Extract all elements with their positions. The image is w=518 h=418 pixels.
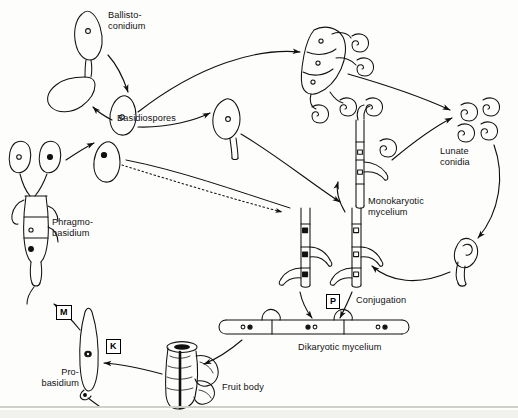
arrow-spore-to-ballisto xyxy=(93,107,112,120)
arrow-phragmo-to-spore xyxy=(66,143,94,160)
arrow-monokaryon-to-conidiogenous xyxy=(337,182,345,212)
lunate-conidia-on-mycelium xyxy=(366,98,397,157)
marker-plasmogamy: P xyxy=(326,294,340,309)
fruit-body-shape xyxy=(166,342,219,409)
label-ballistoconidium: Ballisto- conidium xyxy=(108,10,146,31)
monokaryotic-mycelium-white-shape xyxy=(330,208,383,287)
monokaryotic-mycelium-black-shape xyxy=(279,208,332,287)
arrow-ballisto-to-spore xyxy=(108,55,128,92)
germinating-lunate-conidium-shape xyxy=(454,238,477,286)
probasidium-shape xyxy=(80,308,99,406)
arrow-germ-conidium-to-monokaryon xyxy=(372,266,450,281)
arrow-dikaryon-to-fruitbody xyxy=(204,340,242,364)
arrow-white-monokaryon-to-dikaryon xyxy=(340,292,352,318)
basidiospore-lower-shape xyxy=(94,142,120,183)
marker-karyogamy: K xyxy=(106,339,121,354)
arrow-spore-to-conidiophore xyxy=(138,51,300,112)
arrow-spore-to-black-monokaryon xyxy=(122,165,282,212)
arrow-germinating-to-monokaryon xyxy=(241,134,340,202)
ballistoconidium-shape xyxy=(75,11,103,77)
life-cycle-drawing xyxy=(0,0,518,418)
bracket-line-upper xyxy=(126,160,290,208)
label-dikaryotic-mycelium: Dikaryotic mycelium xyxy=(298,342,382,353)
arrow-conidia-to-germinating xyxy=(478,145,500,238)
lunate-conidia-cluster-shape xyxy=(458,98,500,142)
arrow-black-monokaryon-to-dikaryon xyxy=(300,292,312,318)
label-monokaryotic-mycelium: Monokaryotic mycelium xyxy=(368,196,424,217)
label-fruit-body: Fruit body xyxy=(222,382,264,393)
germinating-basidiospore-shape xyxy=(213,99,240,160)
conidiophore-sporodochium-shape xyxy=(301,27,356,109)
detached-ballistoconidium-shape xyxy=(48,77,95,112)
arrow-conidiophore-to-conidia xyxy=(348,74,450,110)
label-probasidium: Pro- basidium xyxy=(33,367,79,388)
label-lunate-conidia: Lunate conidia xyxy=(440,146,470,167)
label-basidiospores: Basidiospores xyxy=(117,113,176,124)
figure-bottom-rule xyxy=(0,406,518,408)
dikaryotic-mycelium-shape xyxy=(219,309,409,334)
figure-bottom-margin xyxy=(0,410,518,418)
arrow-fruitbody-to-probasidium xyxy=(104,363,162,374)
marker-meiosis: M xyxy=(56,305,72,320)
label-conjugation: Conjugation xyxy=(356,295,406,306)
monokaryotic-mycelium-conidiogenous-shape xyxy=(356,105,388,208)
life-cycle-figure: Ballisto- conidium Basidiospores Lunate … xyxy=(0,0,518,418)
label-phragmobasidium: Phragmo- basidium xyxy=(52,217,93,238)
